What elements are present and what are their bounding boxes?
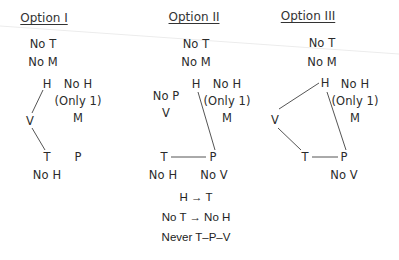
- node-p: P: [340, 150, 347, 164]
- side-note: M: [222, 111, 232, 125]
- opt3-edge-h-v: [279, 83, 319, 109]
- opt1-edge-v-t: [32, 128, 45, 150]
- constraint-label: No T: [183, 37, 210, 51]
- under-t-note: No H: [149, 168, 177, 182]
- side-note: No H: [213, 77, 241, 91]
- side-note: M: [350, 111, 360, 125]
- node-t: T: [160, 150, 167, 164]
- under-p-note: No V: [330, 168, 358, 182]
- side-note: No H: [341, 77, 369, 91]
- rule-line: H → T: [179, 190, 212, 204]
- under-t-note: No H: [33, 168, 61, 182]
- rule-line: Never T–P–V: [162, 230, 231, 244]
- constraint-label: No T: [309, 36, 336, 50]
- side-note: No H: [64, 77, 92, 91]
- node-h: H: [321, 76, 330, 90]
- constraint-label: No M: [28, 55, 58, 69]
- opt1-edge-h-v: [32, 90, 43, 113]
- option-title: Option III: [281, 9, 335, 23]
- left-note: V: [162, 106, 170, 120]
- side-note: (Only 1): [203, 94, 250, 108]
- node-p: P: [74, 150, 81, 164]
- side-note: (Only 1): [54, 94, 101, 108]
- option-title: Option I: [20, 11, 67, 25]
- constraint-label: No M: [181, 55, 211, 69]
- node-t: T: [301, 150, 308, 164]
- node-p: P: [209, 150, 216, 164]
- side-note: (Only 1): [331, 94, 378, 108]
- diagram-canvas: Option I No T No M H No H (Only 1) M V T…: [0, 0, 399, 260]
- constraint-label: No T: [30, 37, 57, 51]
- node-v: V: [26, 114, 34, 128]
- node-t: T: [43, 150, 50, 164]
- constraint-label: No M: [307, 55, 337, 69]
- node-h: H: [192, 77, 201, 91]
- left-note: No P: [153, 89, 180, 103]
- node-v: V: [271, 113, 279, 127]
- rule-line: No T → No H: [162, 210, 231, 224]
- side-note: M: [73, 111, 83, 125]
- under-p-note: No V: [200, 168, 228, 182]
- node-h: H: [43, 77, 52, 91]
- option-title: Option II: [169, 10, 220, 24]
- opt3-edge-v-t: [278, 128, 301, 150]
